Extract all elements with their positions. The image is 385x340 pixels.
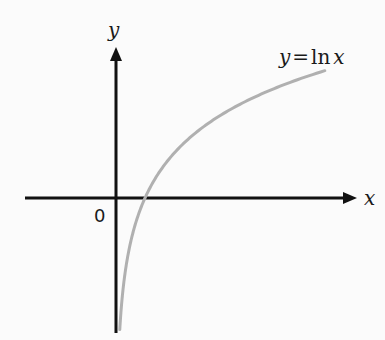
- curve-label: y=lnx: [278, 45, 345, 69]
- x-axis-label: x: [364, 186, 375, 210]
- curve-label-eq: =: [292, 45, 309, 69]
- curve-label-lhs: y: [278, 45, 291, 69]
- series-ln-x: [120, 71, 325, 330]
- x-axis-arrow-icon: [343, 192, 357, 204]
- ln-graph: y x 0 y=lnx: [0, 0, 385, 340]
- y-axis-label: y: [107, 18, 120, 42]
- origin-label: 0: [94, 205, 105, 226]
- curve-label-arg: x: [333, 45, 344, 69]
- y-axis-arrow-icon: [110, 47, 122, 61]
- curve-label-fn: ln: [311, 45, 330, 69]
